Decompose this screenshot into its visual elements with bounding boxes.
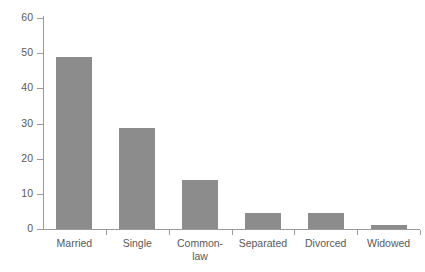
- bar: [56, 57, 92, 229]
- y-axis-tick-label: 40: [0, 82, 33, 93]
- bar: [182, 180, 218, 229]
- category-label: Common- law: [169, 237, 232, 262]
- y-axis-tick-label: 10: [0, 188, 33, 199]
- category-label: Single: [106, 237, 169, 250]
- bar-chart: 6050403020100 MarriedSingleCommon- lawSe…: [0, 0, 425, 272]
- x-axis-tick: [357, 230, 358, 235]
- x-axis-tick: [232, 230, 233, 235]
- category-label: Separated: [232, 237, 295, 250]
- y-axis-tick-label: 50: [0, 47, 33, 58]
- category-label: Widowed: [357, 237, 420, 250]
- y-axis-tick: [37, 88, 43, 89]
- bar: [119, 128, 155, 229]
- y-axis-tick: [37, 18, 43, 19]
- y-axis-tick-label: 60: [0, 12, 33, 23]
- y-axis-tick-label: 20: [0, 153, 33, 164]
- y-axis-line: [43, 16, 44, 230]
- y-axis-tick: [37, 194, 43, 195]
- y-axis-tick: [37, 159, 43, 160]
- x-axis-tick: [106, 230, 107, 235]
- category-label: Married: [43, 237, 106, 250]
- y-axis-tick: [37, 229, 43, 230]
- category-label: Divorced: [294, 237, 357, 250]
- bar: [371, 225, 407, 229]
- bar: [308, 213, 344, 229]
- x-axis-tick: [294, 230, 295, 235]
- y-axis-tick: [37, 124, 43, 125]
- x-axis-tick: [169, 230, 170, 235]
- y-axis-tick-label: 0: [0, 223, 33, 234]
- y-axis-tick-label: 30: [0, 118, 33, 129]
- bar: [245, 213, 281, 229]
- x-axis-tick: [420, 230, 421, 235]
- y-axis-tick: [37, 53, 43, 54]
